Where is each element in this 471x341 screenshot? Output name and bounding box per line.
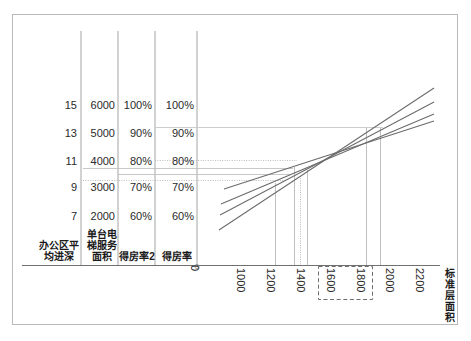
x-axis-title-char-3: 层 [444,290,455,301]
origin-label: 0 [189,265,201,271]
scale-label-depth-13: 13 [57,127,77,139]
scale-label-ratio-80: 80% [160,155,194,167]
x-tick-1600: 1600 [325,268,337,292]
scale-label-area-3000: 3000 [84,181,115,193]
caption-axis-elevator-area-line3: 面积 [85,251,118,262]
x-tick-1400: 1400 [295,268,307,292]
scale-label-ratio-90: 90% [160,127,194,139]
scale-label-ratio2-60: 60% [118,210,152,222]
x-axis-title-char-1: 标 [444,268,455,279]
caption-axis-depth: 办公区平 均进深 [36,240,82,262]
scale-label-area-2000: 2000 [84,210,115,222]
scale-label-depth-11: 11 [57,155,77,167]
x-axis-title: 标 准 层 面 积 [444,268,455,323]
x-axis-title-char-4: 面 [444,301,455,312]
scale-label-depth-15: 15 [57,99,77,111]
data-line-4 [224,121,434,189]
scale-label-ratio-60: 60% [160,210,194,222]
caption-axis-elevator-area: 单台电 梯服务 面积 [85,229,118,262]
x-tick-1800: 1800 [355,268,367,292]
scale-label-ratio2-100: 100% [118,99,152,111]
caption-axis-elevator-area-line2: 梯服务 [85,240,118,251]
scale-label-ratio-100: 100% [160,99,194,111]
data-line-group [219,88,434,230]
x-tick-1200: 1200 [265,268,277,292]
figure-canvas: 15 13 11 9 7 6000 5000 4000 3000 2000 10… [0,0,471,341]
caption-axis-usable-ratio: 得房率 [160,251,194,262]
scale-label-ratio-70: 70% [160,181,194,193]
x-tick-2200: 2200 [414,268,426,292]
scale-label-depth-9: 9 [57,181,77,193]
caption-axis-usable-ratio-2: 得房率2 [119,251,155,262]
scale-label-ratio2-90: 90% [118,127,152,139]
x-tick-1000: 1000 [235,268,247,292]
data-line-2 [220,102,434,215]
scale-label-area-5000: 5000 [84,127,115,139]
caption-axis-depth-line2: 均进深 [36,251,82,262]
scale-label-ratio2-80: 80% [118,155,152,167]
caption-axis-elevator-area-line1: 单台电 [85,229,118,240]
scale-label-area-6000: 6000 [84,99,115,111]
caption-axis-depth-line1: 办公区平 [36,240,82,251]
scale-label-depth-7: 7 [57,210,77,222]
scale-label-area-4000: 4000 [84,155,115,167]
scale-label-ratio2-70: 70% [118,181,152,193]
x-axis-title-char-5: 积 [444,312,455,323]
x-axis-title-char-2: 准 [444,279,455,290]
x-tick-2000: 2000 [384,268,396,292]
